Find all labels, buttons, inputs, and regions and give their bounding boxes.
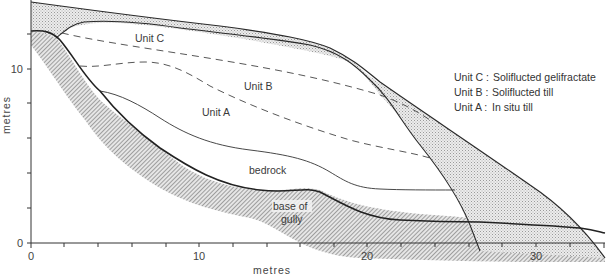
legend-unit-b-desc: Soliflucted till — [492, 86, 553, 98]
unit-b-label: Unit B — [244, 80, 273, 92]
x-tick-label-0: 0 — [28, 250, 34, 262]
legend-unit-a-desc: In situ till — [492, 101, 533, 113]
y-axis-title: metres — [0, 96, 12, 134]
x-tick-label-20: 20 — [361, 250, 373, 262]
base-of-gully-label-line1: base of — [273, 200, 308, 212]
unit-c-upper-band — [31, 2, 350, 62]
legend-unit-c-key: Unit C : — [454, 71, 489, 83]
legend-unit-b-key: Unit B : — [454, 86, 488, 98]
bedrock-label: bedrock — [249, 164, 287, 176]
x-axis-title: metres — [253, 264, 291, 276]
unit-c-label: Unit C — [135, 32, 165, 44]
y-tick-label-0: 0 — [17, 237, 23, 249]
x-tick-label-10: 10 — [193, 250, 205, 262]
y-tick-label-10: 10 — [11, 63, 23, 75]
y-ticks — [27, 34, 31, 243]
x-tick-label-30: 30 — [530, 250, 542, 262]
unit-b-upper-dashed-line — [62, 33, 430, 120]
unit-a-label: Unit A — [202, 106, 230, 118]
base-of-gully-label-line2: gully — [281, 213, 303, 225]
legend-unit-c-desc: Soliflucted gelifractate — [493, 71, 596, 83]
cross-section-diagram: 0 10 20 30 0 10 metres metres Unit C Uni… — [0, 0, 609, 278]
legend-unit-a-key: Unit A : — [454, 101, 487, 113]
legend: Unit C : Soliflucted gelifractate Unit B… — [454, 71, 596, 113]
